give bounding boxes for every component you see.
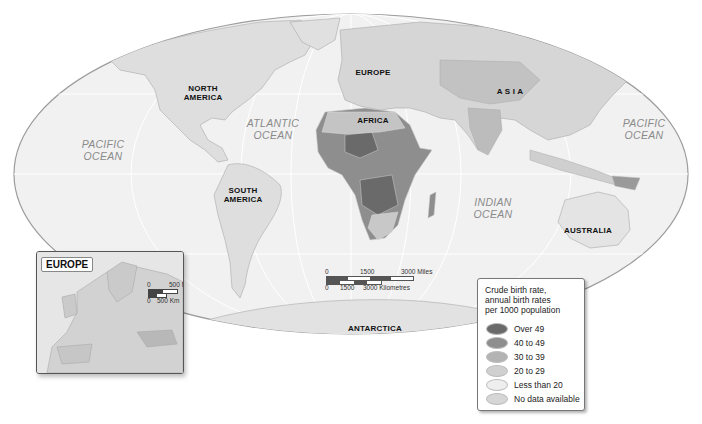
label-indian-ocean: INDIANOCEAN: [463, 196, 523, 220]
inset-scale-km-zero: 0: [147, 297, 151, 304]
legend-swatch: [486, 379, 508, 391]
legend-swatch: [486, 393, 508, 405]
legend-item-no-data: No data available: [486, 393, 580, 404]
scale-km-zero: 0: [325, 284, 329, 291]
europe-inset-map: EUROPE 0 500 Mi 0 500 Km: [36, 251, 184, 374]
legend: Crude birth rate, annual birth rates per…: [477, 278, 585, 411]
label-atlantic-ocean: ATLANTICOCEAN: [238, 117, 308, 141]
scale-miles-zero: 0: [325, 268, 329, 275]
inset-title: EUROPE: [41, 257, 93, 272]
scale-bar: 0 1500 3000 Miles 0 1500 3000 Kilometres: [323, 268, 443, 294]
inset-scale-km-max: 500 Km: [157, 297, 179, 304]
legend-item-over-49: Over 49: [486, 323, 544, 334]
inset-scale-miles-max: 500 Mi: [169, 281, 184, 288]
scale-km-mid: 1500: [340, 284, 354, 291]
legend-swatch: [486, 351, 508, 363]
legend-item-30-39: 30 to 39: [486, 351, 545, 362]
label-antarctica: ANTARCTICA: [335, 324, 415, 333]
legend-item-20-29: 20 to 29: [486, 365, 545, 376]
label-australia: AUSTRALIA: [553, 226, 623, 235]
world-map: NORTHAMERICA SOUTHAMERICA EUROPE AFRICA …: [0, 0, 702, 424]
label-north-america: NORTHAMERICA: [168, 84, 238, 102]
scale-miles-mid: 1500: [360, 268, 374, 275]
label-africa: AFRICA: [343, 116, 403, 125]
label-pacific-ocean-west: PACIFICOCEAN: [73, 138, 133, 162]
legend-swatch: [486, 365, 508, 377]
label-south-america: SOUTHAMERICA: [208, 186, 278, 204]
legend-item-40-49: 40 to 49: [486, 337, 545, 348]
legend-swatch: [486, 323, 508, 335]
scale-miles-max: 3000 Miles: [401, 268, 432, 275]
label-pacific-ocean-east: PACIFICOCEAN: [614, 117, 674, 141]
legend-swatch: [486, 337, 508, 349]
legend-title: Crude birth rate, annual birth rates per…: [485, 285, 560, 315]
scale-km-max: 3000 Kilometres: [363, 284, 410, 291]
label-europe: EUROPE: [343, 68, 403, 77]
inset-scale-miles-zero: 0: [147, 281, 151, 288]
label-asia: A S I A: [480, 87, 540, 96]
legend-item-less-than-20: Less than 20: [486, 379, 563, 390]
